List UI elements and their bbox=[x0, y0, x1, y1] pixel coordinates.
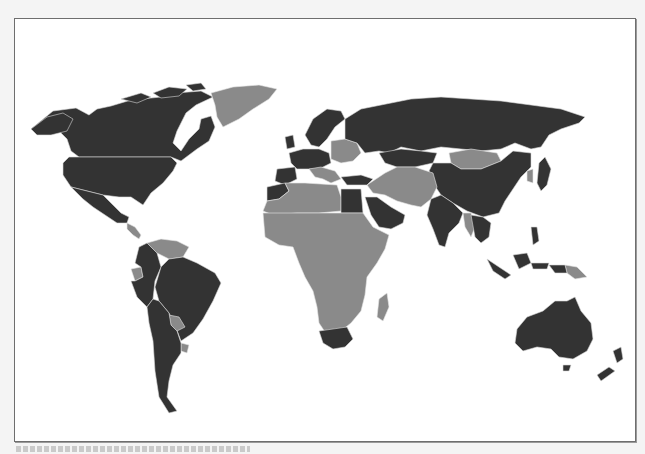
world-map bbox=[15, 19, 635, 441]
region-usa bbox=[63, 157, 177, 205]
region-central-america bbox=[127, 223, 141, 239]
region-egypt bbox=[341, 189, 363, 213]
region-kazakhstan bbox=[379, 149, 437, 167]
region-korea bbox=[527, 169, 533, 183]
region-philippines bbox=[531, 227, 539, 245]
region-greenland bbox=[211, 85, 277, 127]
region-madagascar bbox=[377, 293, 389, 321]
region-indonesia bbox=[487, 253, 549, 279]
region-south-africa bbox=[319, 327, 353, 349]
region-turkey bbox=[341, 175, 373, 185]
region-new-zealand bbox=[597, 347, 623, 381]
map-frame bbox=[14, 18, 636, 442]
region-southeast-asia bbox=[471, 215, 491, 243]
region-sub-saharan-africa bbox=[263, 213, 389, 335]
region-uruguay bbox=[181, 343, 189, 353]
region-korea-japan bbox=[537, 157, 551, 191]
region-new-guinea-west bbox=[549, 265, 567, 273]
region-tasmania bbox=[563, 365, 571, 371]
region-iberia bbox=[275, 167, 297, 185]
region-australia bbox=[515, 297, 593, 359]
region-uk bbox=[285, 135, 295, 149]
region-western-europe bbox=[289, 149, 331, 169]
map-caption-illegible bbox=[16, 446, 250, 452]
region-russia bbox=[345, 97, 585, 153]
region-italy-balkans bbox=[309, 167, 341, 183]
region-papua-new-guinea bbox=[565, 265, 587, 279]
